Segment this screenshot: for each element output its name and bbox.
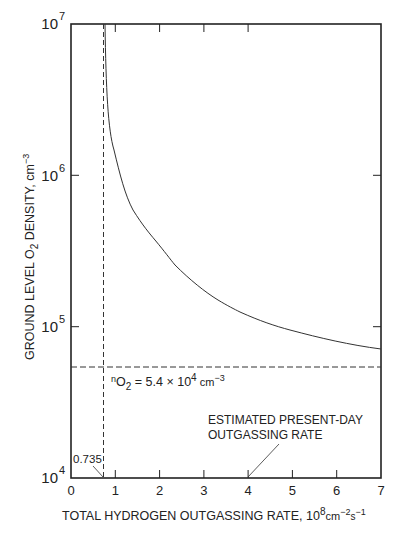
svg-text:0: 0 — [67, 483, 74, 498]
x-ticks — [115, 24, 336, 478]
plot-frame — [71, 24, 381, 478]
chart: 10 7 10 6 10 5 10 4 0 1 2 3 4 5 6 7 TOTA… — [0, 0, 400, 540]
present-day-pointer — [248, 444, 279, 477]
svg-text:6: 6 — [333, 483, 340, 498]
svg-text:3: 3 — [200, 483, 207, 498]
svg-text:4: 4 — [244, 483, 251, 498]
y-axis-title: GROUND LEVEL O2 DENSITY, cm−3 — [21, 154, 40, 360]
y-ticks — [71, 175, 381, 326]
x-tick-labels: 0 1 2 3 4 5 6 7 — [67, 483, 384, 498]
present-day-label-line2: OUTGASSING RATE — [208, 428, 322, 442]
svg-text:10: 10 — [41, 318, 58, 335]
svg-text:6: 6 — [59, 162, 65, 174]
svg-text:5: 5 — [289, 483, 296, 498]
y-tick-labels: 10 7 10 6 10 5 10 4 — [41, 10, 65, 486]
svg-text:10: 10 — [41, 469, 58, 486]
x-axis-title: TOTAL HYDROGEN OUTGASSING RATE, 108cm−2s… — [62, 506, 366, 523]
svg-text:10: 10 — [41, 167, 58, 184]
svg-text:1: 1 — [112, 483, 119, 498]
svg-text:2: 2 — [156, 483, 163, 498]
svg-text:10: 10 — [41, 15, 58, 32]
present-day-label-line1: ESTIMATED PRESENT-DAY — [208, 413, 363, 427]
vline-pointer — [93, 466, 103, 477]
svg-text:7: 7 — [59, 10, 65, 22]
density-curve — [105, 24, 381, 349]
hline-label: nO2 = 5.4 × 104 cm−3 — [111, 372, 225, 392]
svg-text:4: 4 — [59, 464, 65, 476]
vline-label: 0.735 — [73, 453, 102, 465]
svg-text:7: 7 — [377, 483, 384, 498]
svg-text:5: 5 — [59, 313, 65, 325]
